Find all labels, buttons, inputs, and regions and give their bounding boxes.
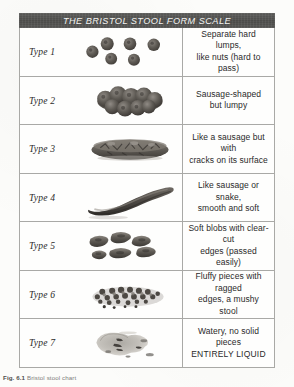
soft-blobs-illustration [78, 222, 182, 270]
description-cell: Like a sausage but with cracks on its su… [182, 125, 274, 173]
type-cell: Type 7 [20, 319, 78, 367]
art-cell [78, 125, 182, 173]
separate-hard-lumps-illustration [78, 28, 182, 76]
type-cell: Type 6 [20, 271, 78, 319]
description-cell: Sausage-shaped but lumpy [182, 77, 274, 125]
type-cell: Type 1 [20, 28, 78, 76]
lumpy-sausage-illustration [78, 77, 182, 125]
description-line: Fluffy pieces with ragged [188, 271, 269, 294]
description-cell: Like sausage or snake, smooth and soft [182, 174, 274, 222]
description-text: Watery, no solid pieces ENTIRELY LIQUID [188, 326, 269, 361]
description-line: like nuts (hard to pass) [188, 52, 269, 75]
description-line: Like sausage or snake, [188, 180, 269, 203]
description-line: but lumpy [196, 100, 261, 112]
figure-caption: Fig. 6.1 Bristol stool chart [3, 374, 243, 381]
fluffy-mushy-pieces-illustration [78, 271, 182, 319]
table-row: Type 4 [20, 174, 274, 223]
type-cell: Type 3 [20, 125, 78, 173]
bristol-stool-scale-figure: THE BRISTOL STOOL FORM SCALE Type 1 [19, 13, 275, 368]
type-label: Type 6 [29, 289, 55, 300]
figure-title: THE BRISTOL STOOL FORM SCALE [63, 16, 231, 26]
description-text: Like sausage or snake, smooth and soft [188, 180, 269, 215]
art-cell [78, 174, 182, 222]
table-row: Type 2 [20, 77, 274, 126]
description-text: Separate hard lumps, like nuts (hard to … [188, 29, 269, 75]
type-label: Type 5 [29, 240, 55, 251]
art-cell [78, 319, 182, 367]
description-line: edges, a mushy stool [188, 294, 269, 317]
description-text: Soft blobs with clear-cut edges (passed … [188, 223, 269, 269]
figure-caption-number: Fig. 6.1 [3, 374, 25, 381]
type-label: Type 7 [29, 337, 55, 348]
description-text: Fluffy pieces with ragged edges, a mushy… [188, 271, 269, 317]
table-row: Type 5 [20, 222, 274, 271]
type-cell: Type 5 [20, 222, 78, 270]
description-line: Watery, no solid pieces [188, 326, 269, 349]
description-line: edges (passed easily) [188, 246, 269, 269]
description-cell: Soft blobs with clear-cut edges (passed … [182, 222, 274, 270]
type-label: Type 4 [29, 192, 55, 203]
type-label: Type 3 [29, 143, 55, 154]
table-row: Type 7 [20, 319, 274, 367]
description-line: Soft blobs with clear-cut [188, 223, 269, 246]
smooth-snake-illustration [78, 174, 182, 222]
art-cell [78, 77, 182, 125]
description-line: Separate hard lumps, [188, 29, 269, 52]
figure-title-bar: THE BRISTOL STOOL FORM SCALE [19, 13, 275, 28]
description-cell: Separate hard lumps, like nuts (hard to … [182, 28, 274, 76]
type-label: Type 1 [29, 46, 55, 57]
table-row: Type 1 [20, 28, 274, 77]
description-line: cracks on its surface [188, 155, 269, 167]
art-cell [78, 222, 182, 270]
type-label: Type 2 [29, 95, 55, 106]
description-line: ENTIRELY LIQUID [188, 349, 269, 361]
figure-caption-text: Bristol stool chart [27, 374, 76, 381]
description-line: Sausage-shaped [196, 89, 261, 101]
stool-scale-table: Type 1 [19, 28, 275, 368]
art-cell [78, 271, 182, 319]
art-cell [78, 28, 182, 76]
description-text: Like a sausage but with cracks on its su… [188, 132, 269, 167]
description-cell: Fluffy pieces with ragged edges, a mushy… [182, 271, 274, 319]
description-line: smooth and soft [188, 203, 269, 215]
table-row: Type 3 [20, 125, 274, 174]
type-cell: Type 2 [20, 77, 78, 125]
description-cell: Watery, no solid pieces ENTIRELY LIQUID [182, 319, 274, 367]
table-row: Type 6 [20, 271, 274, 320]
watery-liquid-illustration [78, 319, 182, 367]
type-cell: Type 4 [20, 174, 78, 222]
description-line: Like a sausage but with [188, 132, 269, 155]
figure-page: THE BRISTOL STOOL FORM SCALE Type 1 [0, 0, 294, 387]
description-text: Sausage-shaped but lumpy [196, 89, 261, 112]
cracked-sausage-illustration [78, 125, 182, 173]
